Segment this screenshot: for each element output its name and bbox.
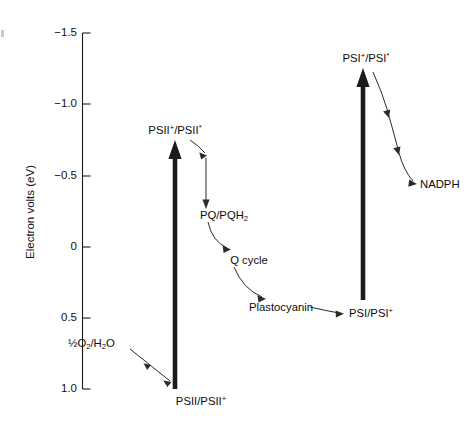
pq-to-qcycle-head xyxy=(223,246,231,253)
psi-to-nadph-seg3 xyxy=(399,153,413,181)
pq-drop-head xyxy=(202,200,209,210)
pc-to-psi-head xyxy=(336,310,344,317)
qcycle-to-plastocyanin-arrow xyxy=(234,267,266,302)
label-pq: PQ/PQH2 xyxy=(200,209,248,223)
tick-label: −1.0 xyxy=(54,97,77,109)
water-arrow-head-mid xyxy=(144,363,152,370)
label-psii-ground: PSII/PSII+ xyxy=(176,394,227,408)
psii-arrow-head xyxy=(168,140,181,159)
label-psi-excited: PSI+/PSI* xyxy=(343,51,390,65)
z-scheme-diagram: −1.5 −1.0 −0.5 0 0.5 1.0 Electron volts … xyxy=(0,0,476,433)
psi-to-nadph-seg1 xyxy=(373,72,388,112)
psii-to-pq-hook xyxy=(190,140,205,153)
z-scheme-figure: −1.5 −1.0 −0.5 0 0.5 1.0 Electron volts … xyxy=(0,0,476,433)
tick-label: −1.5 xyxy=(54,26,77,38)
psi-to-nadph-arrow xyxy=(373,72,417,187)
scan-artifact xyxy=(1,30,4,37)
label-plastocyanin: Plastocyanin xyxy=(249,301,313,313)
qcycle-to-pc-curve xyxy=(234,267,262,297)
tick-label: 1.0 xyxy=(61,382,77,394)
pq-to-qcycle-curve xyxy=(208,222,227,248)
label-psi-ground: PSI/PSI+ xyxy=(349,306,394,320)
psi-excitation-arrow xyxy=(356,68,369,300)
tick-label: 0.5 xyxy=(61,311,77,323)
tick-label: 0 xyxy=(71,240,77,252)
psi-arrow-head xyxy=(356,68,369,87)
plastocyanin-to-psi-arrow xyxy=(310,307,344,318)
psii-excitation-arrow xyxy=(168,140,181,389)
label-q-cycle: Q cycle xyxy=(230,254,268,266)
axis-ticks xyxy=(83,33,91,389)
y-axis-title: Electron volts (eV) xyxy=(24,165,36,259)
label-nadph: NADPH xyxy=(420,178,460,190)
pc-to-psi-curve xyxy=(310,307,339,313)
psi-to-nadph-seg2 xyxy=(389,116,398,149)
tick-label: −0.5 xyxy=(54,169,77,181)
label-psii-excited: PSII+/PSII* xyxy=(148,123,201,137)
psii-to-pq-arrow xyxy=(190,140,210,209)
pq-to-qcycle-arrow xyxy=(208,222,231,253)
water-arrow-head-end xyxy=(163,381,171,387)
label-water: ½O2/H2O xyxy=(68,337,115,351)
water-to-psii-arrow xyxy=(130,349,172,387)
